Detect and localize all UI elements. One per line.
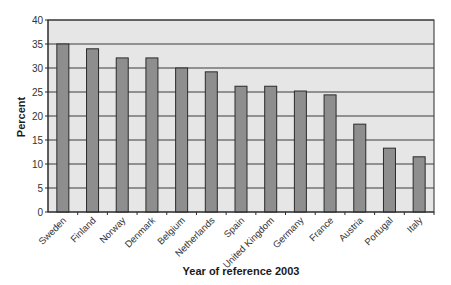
bar-chart: 0510152025303540 SwedenFinlandNorwayDenm… — [0, 0, 451, 285]
y-axis-ticks: 0510152025303540 — [32, 15, 48, 218]
bar-austria — [354, 124, 366, 212]
y-tick-label: 40 — [32, 15, 44, 26]
bar-germany — [294, 91, 306, 212]
x-tick-label: Portugal — [362, 215, 395, 248]
x-tick-label: Sweden — [36, 215, 68, 247]
y-tick-label: 20 — [32, 111, 44, 122]
bar-italy — [413, 157, 425, 212]
y-tick-label: 10 — [32, 159, 44, 170]
bar-france — [324, 95, 336, 212]
x-axis-title: Year of reference 2003 — [183, 265, 300, 277]
x-tick-label: France — [307, 215, 336, 244]
bar-sweden — [57, 44, 69, 212]
x-tick-label: Germany — [270, 214, 306, 250]
bar-portugal — [383, 148, 395, 212]
x-tick-label: Spain — [221, 215, 246, 240]
bar-finland — [87, 49, 99, 212]
bar-united-kingdom — [265, 86, 277, 212]
y-tick-label: 5 — [37, 183, 43, 194]
bar-belgium — [176, 68, 188, 212]
bar-netherlands — [205, 72, 217, 212]
x-axis-labels: SwedenFinlandNorwayDenmarkBelgiumNetherl… — [36, 212, 434, 270]
x-tick-label: Austria — [336, 214, 365, 243]
bar-spain — [235, 86, 247, 212]
x-tick-label: Italy — [404, 214, 424, 234]
x-tick-label: Denmark — [122, 214, 157, 249]
y-axis-title: Percent — [15, 96, 27, 137]
x-tick-label: Finland — [68, 215, 98, 245]
bar-denmark — [146, 58, 158, 212]
x-tick-label: United Kingdom — [221, 215, 277, 271]
bar-norway — [116, 58, 128, 212]
y-tick-label: 15 — [32, 135, 44, 146]
y-tick-label: 35 — [32, 39, 44, 50]
y-tick-label: 0 — [37, 207, 43, 218]
y-tick-label: 25 — [32, 87, 44, 98]
y-tick-label: 30 — [32, 63, 44, 74]
